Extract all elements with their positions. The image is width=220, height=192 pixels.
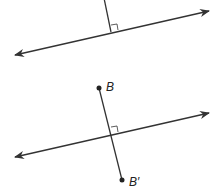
point-B [97, 86, 102, 91]
reflection-diagram: B B′ [0, 0, 220, 192]
top-perpendicular-segment [104, 0, 111, 32]
top-line-of-reflection [15, 11, 209, 55]
bottom-right-angle-marker [111, 126, 118, 132]
point-B-prime [120, 178, 125, 183]
label-B: B [106, 80, 114, 94]
top-figure [15, 0, 209, 55]
bottom-figure: B B′ [15, 80, 209, 189]
bottom-line-of-reflection [15, 113, 209, 157]
top-right-angle-marker [111, 24, 118, 30]
label-B-prime: B′ [129, 175, 140, 189]
